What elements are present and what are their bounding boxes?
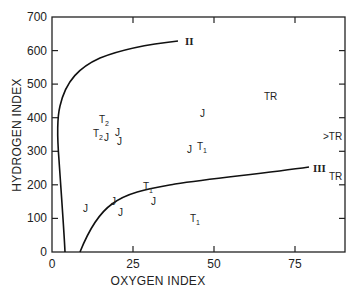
- x-tick-labels: 0 25 50 75: [49, 257, 302, 271]
- svg-text:2: 2: [99, 134, 103, 141]
- y-tick-700: 700: [27, 10, 47, 24]
- svg-text:1: 1: [149, 187, 153, 194]
- y-tick-300: 300: [27, 144, 47, 158]
- van-krevelen-chart: 0 100 200 300 400 500 600 700 0 25 50 75…: [0, 0, 356, 291]
- curve-ii-label: II: [185, 35, 194, 47]
- svg-text:1: 1: [203, 147, 207, 154]
- gt-tr-marker: >TR: [323, 131, 342, 142]
- y-tick-0: 0: [40, 245, 47, 259]
- curve-iii-label: III: [313, 162, 326, 174]
- y-tick-500: 500: [27, 77, 47, 91]
- y-tick-100: 100: [27, 211, 47, 225]
- x-axis-title: OXYGEN INDEX: [111, 274, 206, 288]
- x-tick-75: 75: [288, 257, 302, 271]
- t1-marker: T 1: [143, 181, 153, 194]
- t1-marker: T 1: [197, 141, 207, 154]
- y-tick-200: 200: [27, 178, 47, 192]
- y-tick-400: 400: [27, 111, 47, 125]
- j-marker: J: [187, 144, 192, 155]
- t2-marker: T 2: [93, 128, 103, 141]
- x-tick-50: 50: [207, 257, 221, 271]
- x-tick-0: 0: [49, 257, 56, 271]
- y-tick-600: 600: [27, 44, 47, 58]
- x-ticks: [133, 17, 295, 252]
- x-tick-25: 25: [126, 257, 140, 271]
- j-marker: J: [151, 196, 156, 207]
- tr-marker: TR: [329, 171, 342, 182]
- j-marker: J: [117, 136, 122, 147]
- j-marker: J: [111, 196, 116, 207]
- t2-marker: T 2: [99, 114, 109, 127]
- svg-text:1: 1: [196, 219, 200, 226]
- tr-marker: TR: [264, 91, 277, 102]
- j-marker: J: [200, 108, 205, 119]
- curve-iii: [80, 167, 309, 252]
- j-marker: J: [104, 132, 109, 143]
- y-axis-title: HYDROGEN INDEX: [10, 78, 24, 192]
- svg-text:2: 2: [105, 120, 109, 127]
- j-marker: J: [83, 203, 88, 214]
- y-tick-labels: 0 100 200 300 400 500 600 700: [27, 10, 47, 259]
- t1-marker: T 1: [190, 213, 200, 226]
- j-marker: J: [118, 207, 123, 218]
